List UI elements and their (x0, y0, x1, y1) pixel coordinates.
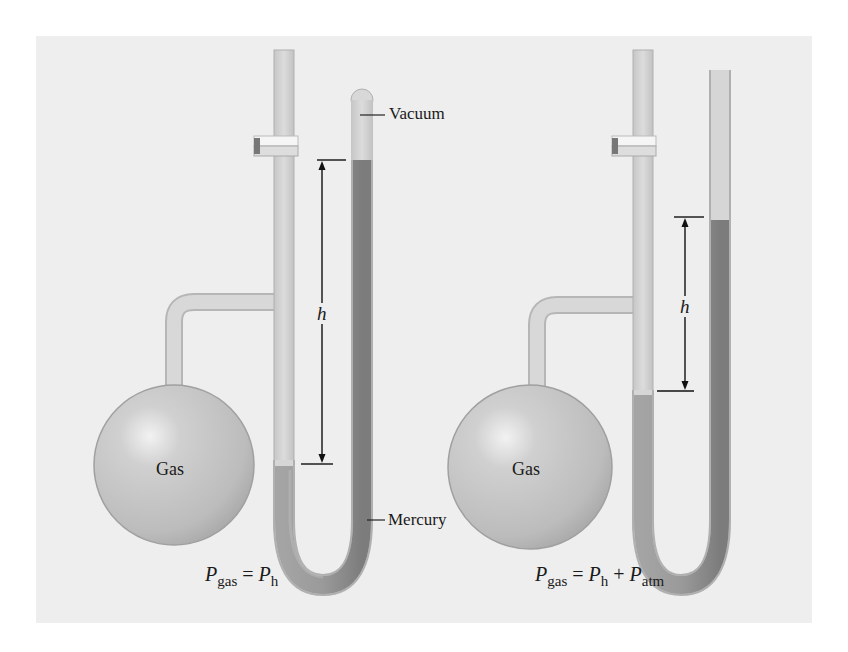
right-manometer (448, 50, 720, 585)
left-mercury-column (284, 160, 362, 585)
left-connector-tube (174, 302, 276, 392)
truncated-caption (40, 644, 460, 652)
right-gas-label: Gas (512, 460, 540, 478)
stopcock-icon (254, 136, 298, 156)
left-height-label: h (317, 303, 327, 324)
right-mercury-column (643, 220, 720, 585)
mercury-label: Mercury (388, 511, 447, 528)
right-height-label: h (680, 296, 690, 317)
stopcock-icon (612, 136, 656, 156)
right-equation: Pgas=Ph+Patm (535, 564, 664, 584)
manometer-drawing (0, 0, 848, 652)
left-manometer-inner-tube (274, 50, 294, 530)
left-gas-label: Gas (156, 460, 184, 478)
vacuum-label: Vacuum (389, 105, 445, 122)
right-connector-tube (537, 305, 634, 390)
manometer-figure: Vacuum Mercury Gas Gas h h Pgas=Ph Pgas=… (0, 0, 848, 652)
left-equation: Pgas=Ph (205, 564, 278, 584)
left-manometer (94, 50, 385, 585)
